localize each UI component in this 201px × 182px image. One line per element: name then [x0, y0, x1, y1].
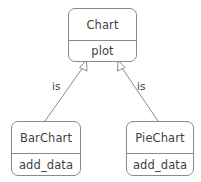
uml-class-diagram-canvas: Chart plot BarChart add_data PieChart ad… — [0, 0, 201, 182]
relationship-label-pie-is-chart: is — [137, 80, 145, 92]
uml-member-add-data-barchart: add_data — [19, 158, 73, 172]
uml-class-box-chart[interactable]: Chart plot — [68, 8, 137, 62]
uml-member-add-data-piechart: add_data — [133, 158, 187, 172]
generalization-line-bar — [45, 67, 84, 122]
uml-class-members-piechart: add_data — [127, 154, 193, 175]
relationship-label-bar-is-chart: is — [52, 80, 60, 92]
uml-class-box-piechart[interactable]: PieChart add_data — [126, 121, 194, 176]
hollow-triangle-arrowhead-icon-bar — [80, 61, 88, 72]
uml-class-members-barchart: add_data — [12, 154, 80, 175]
uml-class-name-chart: Chart — [69, 9, 136, 40]
generalization-line-pie — [121, 67, 158, 122]
uml-class-box-barchart[interactable]: BarChart add_data — [11, 121, 81, 176]
uml-class-members-chart: plot — [69, 41, 136, 61]
uml-class-name-piechart: PieChart — [127, 122, 193, 153]
uml-class-name-barchart: BarChart — [12, 122, 80, 153]
uml-member-plot: plot — [91, 44, 113, 58]
hollow-triangle-arrowhead-icon-pie — [118, 61, 126, 72]
